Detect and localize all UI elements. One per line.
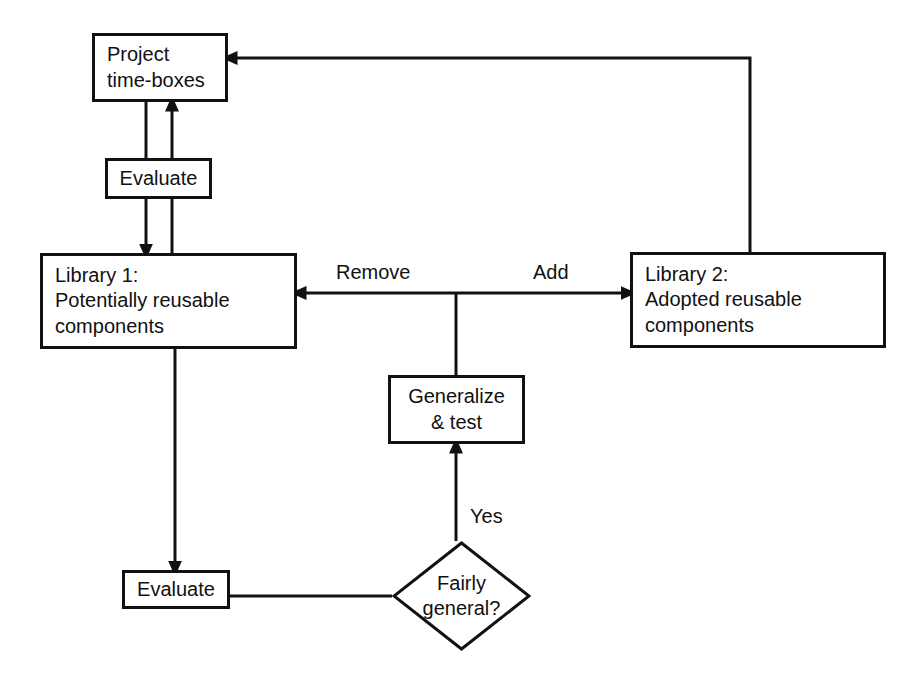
node-project-time-boxes-line-1: Project [107, 42, 169, 67]
node-project-time-boxes[interactable]: Project time-boxes [92, 33, 228, 102]
node-evaluate-top[interactable]: Evaluate [105, 158, 212, 199]
node-library-1[interactable]: Library 1: Potentially reusable componen… [40, 253, 297, 349]
node-library-2-line-3: components [645, 313, 754, 338]
node-library-1-line-2: Potentially reusable [55, 288, 230, 313]
node-library-1-line-1: Library 1: [55, 263, 138, 288]
node-generalize-and-test-line-1: Generalize [408, 384, 505, 409]
edge-label-yes: Yes [470, 505, 503, 528]
node-fairly-general-decision[interactable]: Fairly general? [392, 541, 531, 651]
node-generalize-and-test[interactable]: Generalize & test [388, 375, 525, 444]
edge-label-remove: Remove [336, 261, 410, 284]
node-library-2-line-2: Adopted reusable [645, 287, 802, 312]
node-library-2-line-1: Library 2: [645, 262, 728, 287]
edge-library2-to-project-timeboxes [236, 58, 750, 252]
edge-label-add: Add [533, 261, 569, 284]
node-evaluate-bottom[interactable]: Evaluate [122, 570, 230, 609]
node-evaluate-bottom-label: Evaluate [137, 577, 215, 602]
node-library-1-line-3: components [55, 314, 164, 339]
diamond-shape [392, 541, 531, 651]
node-generalize-and-test-line-2: & test [431, 410, 482, 435]
node-project-time-boxes-line-2: time-boxes [107, 68, 205, 93]
node-library-2[interactable]: Library 2: Adopted reusable components [630, 252, 886, 348]
flowchart-diagram: Project time-boxes Evaluate Library 1: P… [0, 0, 917, 683]
node-evaluate-top-label: Evaluate [120, 166, 198, 191]
